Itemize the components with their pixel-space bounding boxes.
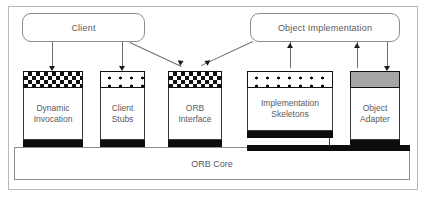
dynamic-invocation-cap-checkered-icon [23, 71, 83, 88]
component-dynamic-invocation: Dynamic Invocation [23, 71, 83, 147]
connector-object-implementation-to-object-adapter [387, 42, 388, 67]
client-stubs-cap-dotted-icon [100, 71, 145, 88]
client-stubs-label-line2: Stubs [112, 114, 134, 125]
actor-object-implementation: Object Implementation [250, 13, 400, 42]
orb-interface-foot [168, 140, 222, 147]
component-object-adapter: Object Adapter [350, 71, 400, 147]
orb-interface-label-line2: Interface [178, 114, 211, 125]
implementation-skeletons-cap-dotted-icon [247, 71, 333, 88]
actor-object-implementation-label: Object Implementation [278, 23, 372, 33]
implementation-skeletons-label-line1: Implementation [261, 98, 319, 109]
arrowhead-object-adapter-to-object-implementation [354, 43, 360, 48]
dynamic-invocation-label-line1: Dynamic [36, 103, 69, 114]
client-stubs-label-line1: Client [112, 103, 134, 114]
component-orb-interface: ORB Interface [168, 71, 222, 147]
dynamic-invocation-body: Dynamic Invocation [23, 88, 83, 140]
actor-client-label: Client [71, 23, 95, 33]
client-stubs-body: Client Stubs [100, 88, 145, 140]
implementation-skeletons-body: Implementation Skeletons [247, 88, 333, 131]
implementation-skeletons-label-line2: Skeletons [271, 109, 308, 120]
object-adapter-label-line1: Object [363, 103, 388, 114]
component-implementation-skeletons: Implementation Skeletons [247, 71, 333, 138]
object-adapter-body: Object Adapter [350, 88, 400, 140]
component-client-stubs: Client Stubs [100, 71, 145, 147]
client-stubs-foot [100, 140, 145, 147]
object-adapter-label-line2: Adapter [360, 114, 390, 125]
orb-core-label: ORB Core [191, 159, 233, 169]
object-adapter-cap-gray-icon [350, 71, 400, 88]
orb-core-bar-right [247, 145, 410, 151]
dynamic-invocation-label-line2: Invocation [34, 114, 73, 125]
arrowhead-skeletons-to-object-implementation [287, 43, 293, 48]
connector-client-to-client-stubs [122, 42, 123, 67]
diagram-canvas: Client Object Implementation Dynamic Inv… [0, 0, 427, 198]
dynamic-invocation-foot [23, 140, 83, 147]
connector-client-to-dynamic-invocation [52, 42, 53, 67]
orb-interface-cap-checkered-icon [168, 71, 222, 88]
actor-client: Client [22, 13, 145, 42]
orb-interface-body: ORB Interface [168, 88, 222, 140]
implementation-skeletons-foot [247, 131, 333, 138]
orb-interface-label-line1: ORB [186, 103, 204, 114]
orb-core: ORB Core [14, 147, 410, 180]
